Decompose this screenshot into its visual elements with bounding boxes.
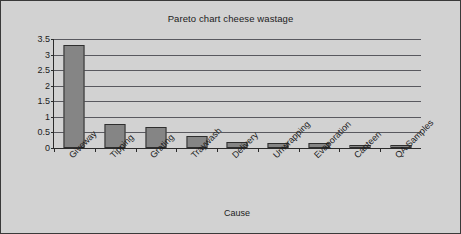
y-tick-label: 1 (45, 112, 50, 122)
x-tick-mark (217, 148, 218, 152)
bar-series (54, 39, 421, 148)
x-tick-mark (95, 148, 96, 152)
x-tick-mark (339, 148, 340, 152)
plot-area: 00.511.522.533.5 (53, 39, 421, 149)
bar-slot (136, 39, 177, 148)
chart-figure: Pareto chart cheese wastage Percentage o… (0, 0, 461, 234)
bar-slot (95, 39, 136, 148)
x-tick-mark (176, 148, 177, 152)
x-axis-title: Cause (53, 208, 421, 218)
y-tick-label: 2 (45, 81, 50, 91)
y-tick-label: 1.5 (37, 96, 50, 106)
x-tick-mark (136, 148, 137, 152)
x-tick-mark (380, 148, 381, 152)
y-tick-label: 0.5 (37, 127, 50, 137)
x-tick-mark (54, 148, 55, 152)
y-tick-label: 2.5 (37, 65, 50, 75)
y-tick-label: 3 (45, 50, 50, 60)
chart-title: Pareto chart cheese wastage (1, 13, 460, 24)
x-tick-mark (258, 148, 259, 152)
bar[interactable] (64, 45, 85, 148)
x-tick-mark (299, 148, 300, 152)
y-tick-label: 0 (45, 143, 50, 153)
y-tick-label: 3.5 (37, 34, 50, 44)
